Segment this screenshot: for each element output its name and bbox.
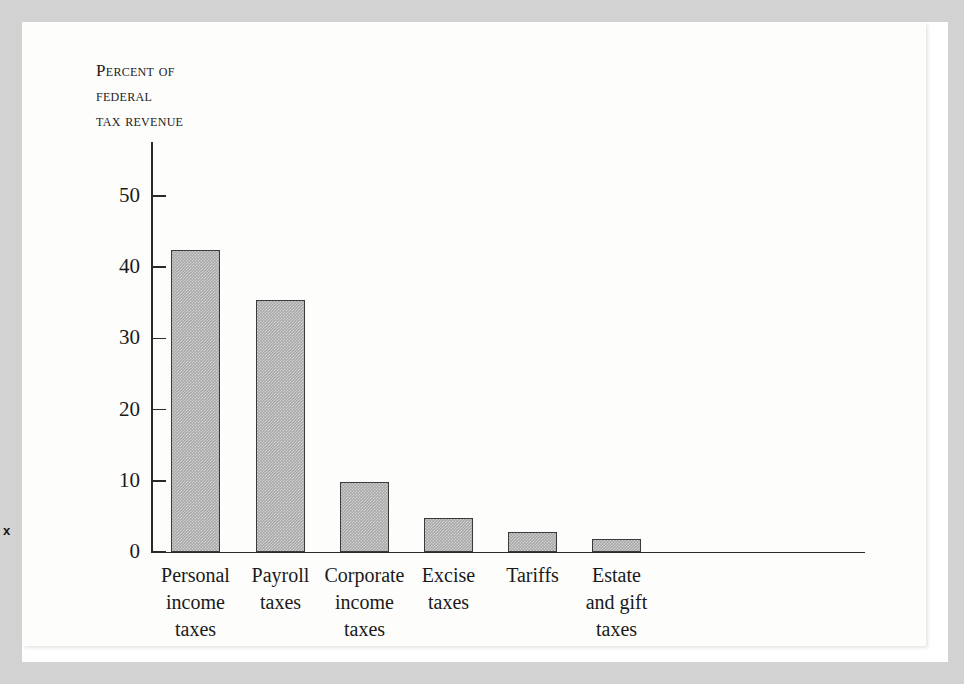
bar-chart: Percent of federal tax revenue 010203040… [0, 0, 964, 684]
y-tick-label-40: 40 [96, 256, 140, 277]
y-tick-50 [152, 195, 166, 197]
bar-2[interactable] [340, 482, 389, 552]
y-axis-title-line-3: tax revenue [96, 108, 326, 133]
bar-0[interactable] [171, 250, 220, 552]
bar-4[interactable] [508, 532, 557, 552]
y-axis-title-line-1: Percent of [96, 58, 326, 83]
category-label-3-line-1: taxes [379, 589, 519, 616]
figure-page: x Percent of federal tax revenue 0102030… [0, 0, 964, 684]
category-label-5-line-0: Estate [547, 562, 687, 589]
y-tick-label-30: 30 [96, 327, 140, 348]
y-tick-0 [152, 551, 166, 553]
y-tick-label-10: 10 [96, 470, 140, 491]
y-tick-20 [152, 409, 166, 411]
category-label-5-line-2: taxes [547, 616, 687, 643]
bar-1[interactable] [256, 300, 305, 552]
category-label-0-line-2: taxes [126, 616, 266, 643]
y-axis-line [151, 142, 153, 553]
category-label-2-line-2: taxes [295, 616, 435, 643]
y-tick-30 [152, 338, 166, 340]
y-tick-label-0: 0 [96, 541, 140, 562]
bar-3[interactable] [424, 518, 473, 552]
bar-5[interactable] [592, 539, 641, 552]
category-label-5-line-1: and gift [547, 589, 687, 616]
y-tick-label-50: 50 [96, 185, 140, 206]
y-tick-label-20: 20 [96, 399, 140, 420]
y-tick-10 [152, 480, 166, 482]
y-axis-title-line-2: federal [96, 83, 326, 108]
y-axis-title: Percent of federal tax revenue [96, 58, 326, 133]
y-tick-40 [152, 266, 166, 268]
category-label-5: Estateand gifttaxes [547, 562, 687, 643]
